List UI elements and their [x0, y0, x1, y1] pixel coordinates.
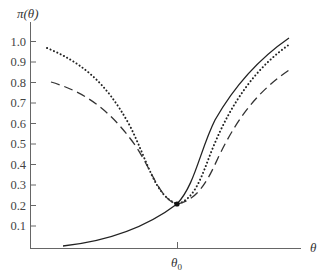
y-tick-label: 0.7 — [10, 96, 26, 110]
x-tick-label-theta0: θ0 — [171, 255, 182, 272]
x-axis-label: θ — [310, 240, 317, 255]
series-solid-curve — [63, 38, 289, 246]
chart: 1.0 0.9 0.8 0.7 0.6 0.5 0.4 0.3 0.2 0.1 … — [0, 0, 325, 272]
series-dashed-curve — [51, 68, 292, 204]
y-tick-label: 0.1 — [10, 219, 26, 233]
y-tick-labels: 1.0 0.9 0.8 0.7 0.6 0.5 0.4 0.3 0.2 0.1 — [10, 35, 26, 234]
intersection-point — [174, 201, 179, 206]
y-tick-label: 0.2 — [10, 199, 26, 213]
y-tick-label: 0.4 — [10, 158, 26, 172]
y-axis-label: π(θ) — [17, 6, 39, 21]
y-tick-label: 0.6 — [10, 117, 26, 131]
y-tick-label: 0.3 — [10, 178, 26, 192]
y-tick-label: 0.8 — [10, 76, 26, 90]
y-tick-label: 1.0 — [10, 35, 26, 49]
y-tick-label: 0.5 — [10, 137, 26, 151]
y-tick-label: 0.9 — [10, 55, 26, 69]
